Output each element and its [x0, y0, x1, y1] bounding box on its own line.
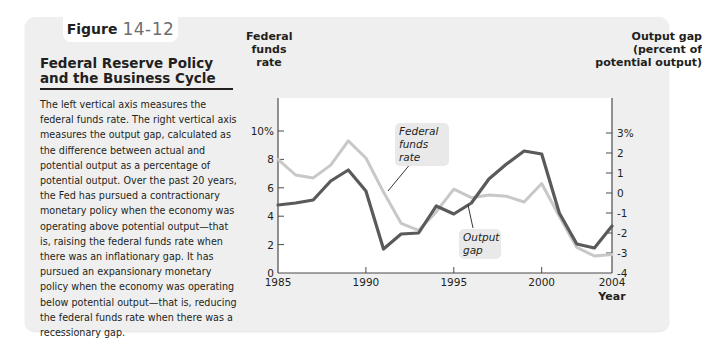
left-tick-label: 6 — [267, 182, 274, 194]
callout-output-gap-text: Output gap — [463, 231, 499, 256]
x-axis-title: Year — [597, 290, 626, 303]
callout-output-gap: Output gap — [459, 229, 501, 259]
left-tick-label: 4 — [267, 210, 274, 222]
right-tick-label: 3% — [617, 127, 634, 139]
x-tick-label: 1985 — [265, 276, 292, 288]
callout-federal-funds-rate-text: Federal funds rate — [399, 125, 438, 163]
x-tick-label: 1990 — [353, 276, 380, 288]
x-tick-label: 1995 — [440, 276, 467, 288]
right-tick-label: 2 — [617, 147, 624, 159]
x-tick-label: 2000 — [528, 276, 555, 288]
right-tick-label: -2 — [617, 227, 627, 239]
left-tick-label: 10% — [251, 125, 274, 137]
right-tick-label: 0 — [617, 187, 624, 199]
x-tick-label: 2004 — [599, 276, 626, 288]
left-tick-label: 8 — [267, 153, 274, 165]
right-tick-label: -1 — [617, 207, 627, 219]
right-tick-label: -3 — [617, 247, 627, 259]
callout-federal-funds-rate: Federal funds rate — [395, 123, 449, 166]
right-tick-label: 1 — [617, 167, 624, 179]
left-tick-label: 2 — [267, 239, 274, 251]
chart: 0246810%-4-3-2-10123%1985199019952000200… — [0, 0, 702, 347]
